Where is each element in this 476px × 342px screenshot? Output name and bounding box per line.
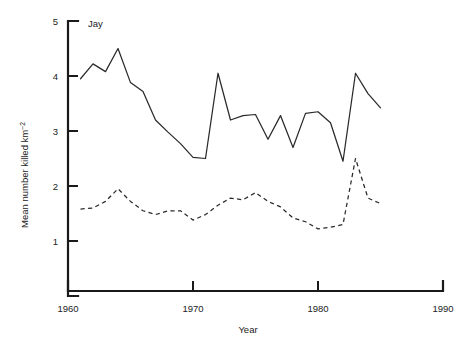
x-axis-line <box>68 281 443 291</box>
y-tick-label-3: 3 <box>53 126 58 137</box>
y-tick-label-2: 2 <box>53 181 58 192</box>
chart-annotation-jay: Jay <box>88 18 103 29</box>
x-tick-label-1990: 1990 <box>432 303 453 314</box>
y-axis-title-exponent: −2 <box>19 122 26 130</box>
x-axis-group: 1960 1970 1980 1990 <box>57 281 453 314</box>
y-tick-label-1: 1 <box>53 236 58 247</box>
x-tick-label-1960: 1960 <box>57 303 78 314</box>
chart-figure: 5 4 3 2 1 Mean number killed km−2 1960 1… <box>0 0 476 342</box>
x-tick-label-1970: 1970 <box>182 303 203 314</box>
y-axis-title-main: Mean number killed km <box>19 130 30 228</box>
dashed-data-line <box>81 159 381 229</box>
y-axis-title-group: Mean number killed km−2 <box>19 122 31 228</box>
solid-data-line <box>81 49 381 162</box>
x-axis-title: Year <box>238 324 257 335</box>
y-tick-label-4: 4 <box>53 71 58 82</box>
y-tick-label-5: 5 <box>53 16 58 27</box>
y-axis-title: Mean number killed km−2 <box>19 122 31 228</box>
x-tick-label-1980: 1980 <box>307 303 328 314</box>
y-axis-group: 5 4 3 2 1 <box>53 16 78 296</box>
y-axis-line <box>68 21 78 296</box>
